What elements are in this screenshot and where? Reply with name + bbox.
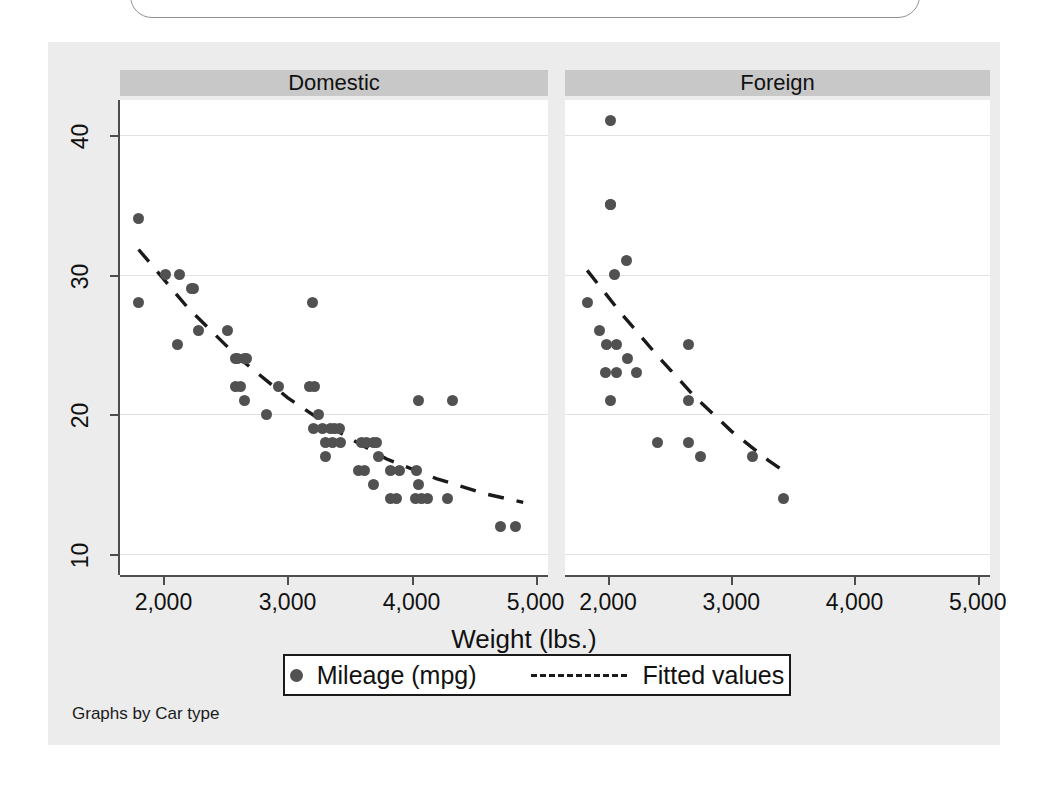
- legend-label-mileage: Mileage (mpg): [317, 661, 477, 690]
- y-tick-label: 20: [67, 396, 94, 436]
- data-point: [683, 395, 694, 406]
- data-point: [391, 493, 402, 504]
- x-tick-4,000: [854, 577, 856, 585]
- data-point: [394, 465, 405, 476]
- data-point: [307, 297, 318, 308]
- data-point: [172, 339, 183, 350]
- data-point: [239, 395, 250, 406]
- x-tick-label: 4,000: [352, 589, 472, 616]
- data-point: [605, 115, 616, 126]
- data-point: [778, 493, 789, 504]
- data-point: [241, 353, 252, 364]
- data-point: [447, 395, 458, 406]
- legend-item-mileage[interactable]: Mileage (mpg): [290, 661, 477, 690]
- fitted-values-curve-foreign: [565, 100, 990, 575]
- x-axis-line-foreign: [565, 575, 990, 577]
- data-point: [605, 395, 616, 406]
- x-tick-label: 3,000: [227, 589, 347, 616]
- y-tick-10: [110, 554, 118, 556]
- filled-circle-icon: [290, 669, 303, 682]
- data-point: [373, 451, 384, 462]
- y-tick-40: [110, 135, 118, 137]
- data-point: [609, 269, 620, 280]
- y-tick-label: 30: [67, 256, 94, 296]
- gridline-y-40: [120, 135, 548, 136]
- x-tick-3,000: [731, 577, 733, 585]
- graph-footnote: Graphs by Car type: [72, 704, 219, 724]
- fitted-values-curve-domestic: [120, 100, 548, 575]
- gridline-y-20: [565, 414, 990, 415]
- x-tick-label: 5,000: [918, 589, 1038, 616]
- y-tick-30: [110, 275, 118, 277]
- data-point: [411, 465, 422, 476]
- data-point: [652, 437, 663, 448]
- x-tick-3,000: [287, 577, 289, 585]
- x-tick-2,000: [163, 577, 165, 585]
- x-axis-line-domestic: [120, 575, 548, 577]
- plot-area-domestic: [120, 100, 548, 575]
- gridline-y-20: [120, 414, 548, 415]
- x-tick-label: 2,000: [103, 589, 223, 616]
- gridline-y-40: [565, 135, 990, 136]
- x-axis-title: Weight (lbs.): [48, 624, 1000, 655]
- data-point: [510, 521, 521, 532]
- data-point: [133, 297, 144, 308]
- data-point: [222, 325, 233, 336]
- data-point: [422, 493, 433, 504]
- data-point: [133, 213, 144, 224]
- data-point: [413, 395, 424, 406]
- data-point: [235, 381, 246, 392]
- data-point: [683, 339, 694, 350]
- data-point: [273, 381, 284, 392]
- dashed-line-icon: [531, 674, 627, 677]
- x-tick-5,000: [978, 577, 980, 585]
- data-point: [621, 255, 632, 266]
- data-point: [371, 437, 382, 448]
- data-point: [334, 423, 345, 434]
- data-point: [160, 269, 171, 280]
- data-point: [605, 199, 616, 210]
- legend[interactable]: Mileage (mpg) Fitted values: [283, 654, 791, 696]
- panel-header-label: Domestic: [288, 70, 380, 95]
- gridline-y-10: [565, 554, 990, 555]
- data-point: [611, 367, 622, 378]
- data-point: [495, 521, 506, 532]
- x-tick-label: 3,000: [671, 589, 791, 616]
- x-tick-label: 2,000: [548, 589, 668, 616]
- data-point: [611, 339, 622, 350]
- legend-label-fitted: Fitted values: [643, 661, 785, 690]
- panel-header-domestic: Domestic: [120, 70, 548, 96]
- gridline-y-10: [120, 554, 548, 555]
- data-point: [747, 451, 758, 462]
- screenshot-root: Domestic2,0003,0004,0005,00010203040Fore…: [0, 0, 1063, 801]
- x-tick-2,000: [608, 577, 610, 585]
- data-point: [582, 297, 593, 308]
- data-point: [600, 367, 611, 378]
- data-point: [413, 479, 424, 490]
- data-point: [622, 353, 633, 364]
- data-point: [320, 451, 331, 462]
- data-point: [335, 437, 346, 448]
- x-tick-label: 4,000: [794, 589, 914, 616]
- data-point: [368, 479, 379, 490]
- stata-graph-region: Domestic2,0003,0004,0005,00010203040Fore…: [48, 42, 1000, 745]
- gridline-y-30: [565, 275, 990, 276]
- data-point: [594, 325, 605, 336]
- panel-header-foreign: Foreign: [565, 70, 990, 96]
- data-point: [313, 409, 324, 420]
- y-tick-20: [110, 414, 118, 416]
- y-tick-label: 40: [67, 116, 94, 156]
- data-point: [695, 451, 706, 462]
- data-point: [359, 465, 370, 476]
- x-tick-4,000: [412, 577, 414, 585]
- y-axis-line: [118, 100, 120, 575]
- plot-area-foreign: [565, 100, 990, 575]
- data-point: [309, 381, 320, 392]
- data-point: [174, 269, 185, 280]
- y-tick-label: 10: [67, 536, 94, 576]
- panel-header-label: Foreign: [740, 70, 815, 95]
- legend-item-fitted[interactable]: Fitted values: [531, 661, 785, 690]
- data-point: [631, 367, 642, 378]
- data-point: [683, 437, 694, 448]
- enclosing-rounded-box: [130, 0, 920, 18]
